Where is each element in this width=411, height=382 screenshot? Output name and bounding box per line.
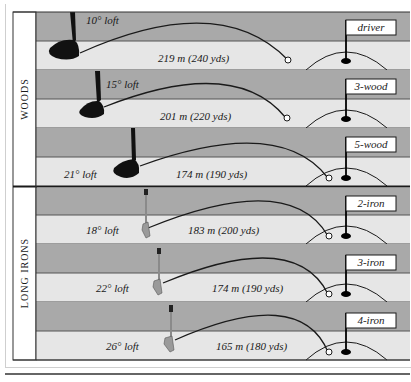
- club-row-4-iron: 4-iron 26° loft 165 m (180 yds): [36, 302, 410, 360]
- club-name: 3-iron: [356, 256, 385, 268]
- loft-label: 10° loft: [86, 14, 120, 26]
- distance-label: 174 m (190 yds): [212, 282, 284, 295]
- ball-icon: [285, 57, 291, 63]
- ball-icon: [326, 291, 332, 297]
- club-row-driver: driver 10° loft 219 m (240 yds): [36, 12, 410, 70]
- distance-label: 174 m (190 yds): [176, 168, 248, 181]
- distance-label: 219 m (240 yds): [158, 52, 230, 65]
- loft-label: 21° loft: [64, 168, 98, 180]
- club-name: 4-iron: [357, 314, 385, 326]
- club-row-5-wood: 5-wood 21° loft 174 m (190 yds): [36, 128, 410, 186]
- loft-label: 18° loft: [86, 224, 120, 236]
- club-row-3-iron: 3-iron 22° loft 174 m (190 yds): [36, 244, 410, 302]
- ball-icon: [326, 175, 332, 181]
- group-label-long-irons: LONG IRONS: [19, 238, 30, 308]
- ball-icon: [326, 233, 332, 239]
- loft-label: 15° loft: [106, 78, 140, 90]
- loft-label: 26° loft: [106, 340, 140, 352]
- club-name: 5-wood: [355, 138, 389, 150]
- ball-icon: [326, 349, 332, 355]
- distance-label: 183 m (200 yds): [188, 224, 260, 237]
- club-name: driver: [358, 21, 386, 33]
- club-name: 2-iron: [357, 197, 385, 209]
- distance-label: 201 m (220 yds): [160, 110, 232, 123]
- loft-label: 22° loft: [96, 282, 130, 294]
- club-name: 3-wood: [354, 80, 389, 92]
- group-label-woods: WOODS: [19, 78, 30, 120]
- club-row-2-iron: 2-iron 18° loft 183 m (200 yds): [36, 188, 410, 244]
- distance-label: 165 m (180 yds): [216, 340, 288, 353]
- club-row-3-wood: 3-wood 15° loft 201 m (220 yds): [36, 70, 410, 128]
- ball-icon: [284, 115, 290, 121]
